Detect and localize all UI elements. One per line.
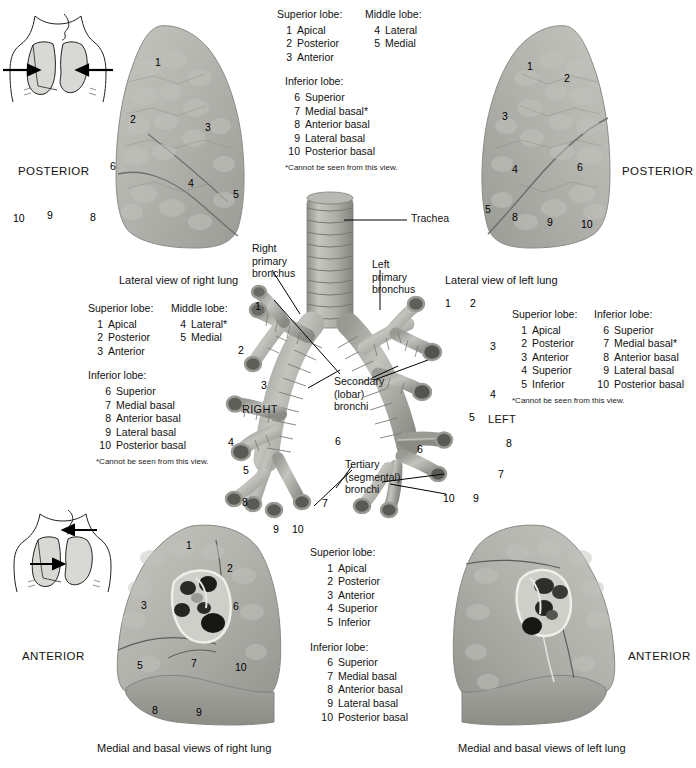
legend-name: Lateral basal (338, 697, 398, 711)
legend-name: Anterior (338, 589, 375, 603)
label-line: bronchus (252, 267, 295, 280)
legend-item: 3Anterior (512, 351, 594, 365)
legend-number: 6 (285, 91, 300, 105)
legend-number: 1 (318, 562, 333, 576)
legend-footnote: *Cannot be seen from this view. (285, 161, 422, 175)
legend-number: 5 (365, 37, 380, 51)
legend-item: 9Lateral basal (594, 364, 684, 378)
bronchus-number: 4 (228, 436, 234, 448)
legend-number: 1 (277, 24, 292, 38)
legend-item: 7Medial basal* (285, 105, 422, 119)
legend-number: 4 (171, 318, 186, 332)
legend-name: Anterior basal (614, 351, 679, 365)
legend-name: Anterior (108, 345, 145, 359)
legend-footnote: *Cannot be seen from this view. (96, 455, 228, 469)
legend-name: Lateral (385, 24, 417, 38)
legend-number: 2 (88, 331, 103, 345)
legend-name: Anterior (532, 351, 569, 365)
legend-number: 9 (285, 132, 300, 146)
legend-item: 5Inferior (318, 616, 408, 630)
bronchus-number: 3 (261, 379, 267, 391)
right-lower-lobar-branches (226, 456, 310, 517)
legend-number: 5 (318, 616, 333, 630)
legend-header: Inferior lobe: (310, 641, 408, 655)
legend-number: 3 (88, 345, 103, 359)
legend-number: 2 (318, 575, 333, 589)
bronchus-number: 7 (498, 468, 504, 480)
legend-name: Anterior (297, 51, 334, 65)
legend-header: Inferior lobe: (88, 369, 228, 383)
bronchus-number: 3 (490, 340, 496, 352)
segment-number: 8 (90, 211, 96, 223)
trachea-shape (307, 192, 353, 328)
legend-name: Lateral basal (614, 364, 674, 378)
segment-number: 1 (155, 56, 161, 68)
segment-number: 3 (141, 599, 147, 611)
label-line: bronchi (345, 483, 400, 496)
label-line: (segmental) (345, 471, 400, 484)
legend-item: 10Posterior basal (594, 378, 684, 392)
segment-number: 6 (577, 161, 583, 173)
legend-name: Inferior (338, 616, 371, 630)
legend-number: 9 (594, 364, 609, 378)
legend-number: 7 (285, 105, 300, 119)
legend-number: 1 (88, 318, 103, 332)
segment-number: 6 (233, 600, 239, 612)
caption-medial-right-lung: Medial and basal views of right lung (97, 742, 271, 754)
segment-number: 9 (196, 706, 202, 718)
legend-number: 9 (96, 426, 111, 440)
legend-item: 8Anterior basal (318, 683, 408, 697)
side-label-left: LEFT (488, 413, 516, 425)
legend-name: Posterior basal (614, 378, 684, 392)
legend-number: 1 (512, 324, 527, 338)
segment-number: 4 (512, 163, 518, 175)
legend-item: 4Lateral* (171, 318, 228, 332)
legend-number: 10 (594, 378, 609, 392)
label-line: primary (252, 255, 295, 268)
legend-name: Posterior basal (116, 439, 186, 453)
legend-header: Superior lobe: (310, 546, 408, 560)
legend-number: 6 (96, 385, 111, 399)
legend-number: 3 (512, 351, 527, 365)
secondary-lobar-bronchi-label: Secondary (lobar) bronchi (334, 375, 384, 413)
legend-item: 6Superior (96, 385, 228, 399)
segment-number: 4 (188, 177, 194, 189)
legend-name: Superior (338, 602, 378, 616)
legend-header: Superior lobe: (512, 308, 594, 322)
bronchus-number: 5 (469, 411, 475, 423)
legend-item: 8Anterior basal (594, 351, 684, 365)
legend-header: Inferior lobe: (594, 308, 684, 322)
legend-item: 4Superior (318, 602, 408, 616)
legend-item: 7Medial basal (96, 399, 228, 413)
legend-name: Lateral* (191, 318, 227, 332)
legend-name: Superior (614, 324, 654, 338)
legend-number: 10 (318, 711, 333, 725)
orientation-label-top-left: POSTERIOR (18, 165, 89, 177)
segment-number: 2 (227, 562, 233, 574)
legend-item: 2Posterior (88, 331, 171, 345)
legend-header: Superior lobe: (88, 302, 171, 316)
tertiary-segmental-bronchi-label: Tertiary (segmental) bronchi (345, 458, 400, 496)
segment-number: 8 (512, 211, 518, 223)
bronchus-number: 8 (506, 437, 512, 449)
legend-item: 5Medial (365, 37, 422, 51)
legend-item: 1Apical (512, 324, 594, 338)
legend-header: Middle lobe: (365, 8, 422, 22)
legend-name: Medial basal (116, 399, 175, 413)
label-line: Secondary (334, 375, 384, 388)
legend-name: Lateral basal (305, 132, 365, 146)
legend-item: 5Medial (171, 331, 228, 345)
legend-item: 4Superior (512, 364, 594, 378)
legend-item: 9Lateral basal (285, 132, 422, 146)
label-line: Right (252, 242, 295, 255)
bronchus-number: 2 (470, 297, 476, 309)
legend-number: 8 (285, 118, 300, 132)
legend-item: 8Anterior basal (285, 118, 422, 132)
medial-basal-view-right-lung-image (112, 522, 300, 726)
orientation-label-bottom-right: ANTERIOR (628, 650, 691, 662)
bronchus-number: 10 (443, 492, 455, 504)
legend-number: 3 (277, 51, 292, 65)
orientation-icon-top-left (2, 12, 114, 117)
medial-basal-view-left-lung-image (448, 522, 628, 726)
legend-footnote: *Cannot be seen from this view. (512, 394, 684, 408)
